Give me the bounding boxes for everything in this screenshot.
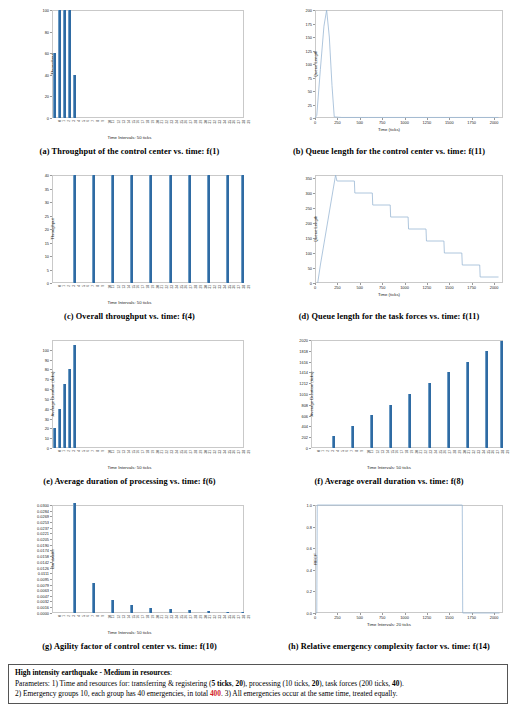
y-tick-mark: [50, 202, 52, 203]
x-tick-label: 13: [122, 615, 126, 619]
x-tick-label: 28: [194, 450, 198, 454]
x-tick-label: 33: [218, 120, 222, 124]
y-tick-mark: [309, 405, 311, 406]
y-tick-mark: [50, 533, 52, 534]
bar: [500, 341, 503, 448]
y-tick-mark: [50, 360, 52, 361]
y-tick-mark: [309, 351, 311, 352]
y-tick-label: 0.0142: [0, 559, 49, 564]
panel-label: (f): [314, 477, 324, 486]
x-tick-label: 11: [112, 450, 116, 453]
plot-area-d: Queue Length0501001502002503003500250500…: [259, 165, 519, 312]
y-tick-mark: [50, 53, 52, 54]
x-tick-mark: [360, 613, 361, 615]
y-tick-label: 1616: [259, 359, 308, 364]
x-tick-label: 1750: [460, 120, 484, 125]
x-tick-label: 1000: [393, 120, 417, 125]
x-tick-label: 6: [86, 615, 90, 617]
x-tick-label: 13: [122, 120, 126, 124]
y-tick-mark: [50, 579, 52, 580]
bar: [428, 383, 431, 448]
x-tick-mark: [449, 283, 450, 285]
y-tick-mark: [50, 189, 52, 190]
bar: [111, 600, 114, 613]
plot-frame: [52, 175, 244, 283]
y-tick-label: 5: [0, 267, 49, 272]
footer-line2-e: ), task forces (200 ticks,: [319, 679, 392, 688]
bar: [169, 175, 172, 283]
x-tick-label: 33: [218, 615, 222, 619]
footer-emergencies-line: 2) Emergency groups 10, each group has 4…: [15, 689, 502, 700]
x-tick-label: 3: [72, 450, 76, 452]
y-tick-mark: [50, 556, 52, 557]
x-tick-label: 29: [198, 450, 202, 454]
figure-panel-b: Queue Length0255075100125150175200025050…: [259, 0, 519, 165]
y-tick-mark: [50, 118, 52, 119]
bar: [332, 436, 335, 448]
x-tick-label: 0: [57, 615, 61, 617]
x-tick-label: 3: [72, 120, 76, 122]
panel-caption-f: (f) Average overall duration vs. time: f…: [259, 477, 519, 487]
x-tick-label: 17: [141, 120, 145, 124]
figure-panel-d: Queue Length0501001502002503003500250500…: [259, 165, 519, 330]
x-tick-label: 23: [170, 615, 174, 619]
x-tick-label: 39: [505, 450, 509, 454]
x-tick-label: 25: [179, 615, 183, 619]
x-tick-label: 24: [174, 615, 178, 619]
y-tick-label: 808: [259, 402, 308, 407]
footer-total-emergencies: 400: [210, 689, 221, 698]
figure-panel-c: Throughput051015202530354001234567891011…: [0, 165, 259, 330]
x-tick-label: 250: [325, 285, 349, 290]
x-tick-label: 5: [81, 120, 85, 122]
y-tick-mark: [309, 426, 311, 427]
x-tick-label: 33: [218, 450, 222, 454]
y-tick-mark: [50, 568, 52, 569]
y-tick-label: 1212: [259, 381, 308, 386]
y-tick-label: 15: [0, 240, 49, 245]
figure-panel-e: Average Duration (ticks)0102030405060708…: [0, 330, 259, 495]
y-tick-mark: [309, 372, 311, 373]
bar: [58, 10, 61, 118]
y-tick-label: 100: [0, 347, 49, 352]
y-tick-label: 1818: [259, 348, 308, 353]
x-tick-label: 38: [242, 120, 246, 124]
panel-label: (a): [40, 147, 52, 156]
x-tick-label: 15: [131, 120, 135, 124]
x-tick-label: 26: [184, 120, 188, 124]
x-tick-mark: [427, 283, 428, 285]
y-tick-label: 20: [0, 227, 49, 232]
x-tick-label: 17: [141, 450, 145, 454]
x-tick-label: 3: [72, 615, 76, 617]
footer-heading-line: High intensity earthquake - Medium in re…: [15, 668, 502, 679]
plot-area-a: Throughput020406080100012345678910111213…: [0, 0, 259, 147]
x-axis-label: Time Intervals: 50 ticks: [0, 465, 259, 470]
y-tick-mark: [309, 383, 311, 384]
x-tick-label: 33: [218, 285, 222, 289]
y-tick-mark: [50, 379, 52, 380]
x-tick-label: 34: [222, 450, 226, 454]
x-tick-label: 1000: [393, 285, 417, 290]
x-tick-label: 0: [303, 285, 327, 290]
y-tick-label: 0.0237: [0, 525, 49, 530]
x-tick-label: 8: [96, 450, 100, 452]
scenario-footer-box: High intensity earthquake - Medium in re…: [8, 664, 508, 704]
y-tick-mark: [50, 505, 52, 506]
x-tick-label: 15: [390, 450, 394, 454]
x-tick-label: 500: [348, 120, 372, 125]
x-tick-label: 7: [91, 120, 95, 122]
bar: [188, 175, 191, 283]
bar: [53, 53, 56, 118]
y-tick-label: 30: [0, 200, 49, 205]
x-tick-mark: [472, 283, 473, 285]
y-tick-label: 80: [0, 367, 49, 372]
panel-caption-text: Average duration of processing vs. time:…: [55, 477, 216, 486]
bar: [226, 612, 229, 613]
x-tick-label: 17: [141, 285, 145, 289]
x-tick-label: 39: [246, 615, 250, 619]
x-tick-label: 24: [174, 450, 178, 454]
y-tick-mark: [309, 448, 311, 449]
x-tick-label: 16: [136, 615, 140, 619]
x-tick-label: 3: [331, 450, 335, 452]
y-tick-mark: [50, 229, 52, 230]
y-tick-label: 1414: [259, 370, 308, 375]
